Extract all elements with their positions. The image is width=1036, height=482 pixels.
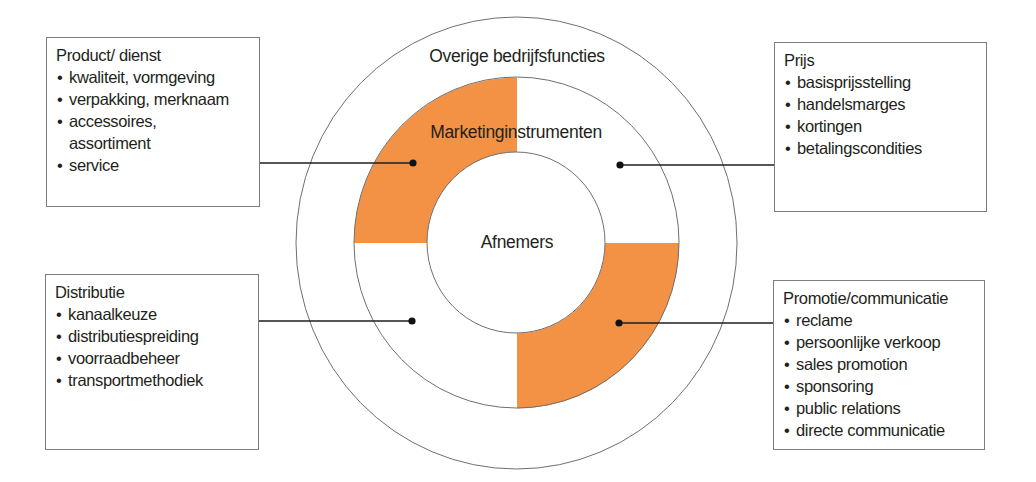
list-item: •sponsoring [783,375,976,397]
bullet-icon: • [56,325,61,347]
bullet-icon: • [56,347,61,369]
box-product-dienst: Product/ dienst •kwaliteit, vormgeving •… [46,37,260,207]
bullet-icon: • [57,154,62,176]
list-item: •accessoires, [56,110,251,132]
list-item: •persoonlijke verkoop [783,331,976,353]
bullet-icon: • [784,397,789,419]
list-item: •verpakking, merknaam [56,88,251,110]
item-list: •kanaalkeuze •distributiespreiding •voor… [55,303,250,391]
bullet-icon: • [784,375,789,397]
connector-dot-icon [615,319,622,326]
item-text: distributiespreiding [68,327,199,345]
connector-dot-icon [409,159,416,166]
list-item: •directe communicatie [783,419,976,441]
bullet-icon: • [57,66,62,88]
bullet-icon: • [785,93,790,115]
item-list: •kwaliteit, vormgeving •verpakking, merk… [56,66,251,176]
list-item: •reclame [783,309,976,331]
item-text: handelsmarges [797,95,905,113]
bullet-icon: • [57,110,62,132]
bullet-icon: • [56,369,61,391]
list-item: •handelsmarges [784,93,978,115]
item-text: service [69,156,119,174]
item-text: reclame [796,311,852,329]
list-item: •kanaalkeuze [55,303,250,325]
outer-ring-label: Overige bedrijfsfuncties [429,46,605,66]
center-label: Afnemers [481,232,554,252]
list-item: •kortingen [784,115,978,137]
bullet-icon: • [56,303,61,325]
list-item: •basisprijsstelling [784,71,978,93]
connector-dot-icon [616,161,623,168]
item-text: sales promotion [796,355,907,373]
item-text: accessoires, [69,112,157,130]
item-text: kortingen [797,117,862,135]
item-text: persoonlijke verkoop [796,333,940,351]
list-item: •voorraadbeheer [55,347,250,369]
bullet-icon: • [784,419,789,441]
item-text: voorraadbeheer [68,349,180,367]
box-title: Distributie [55,281,250,303]
item-text: kwaliteit, vormgeving [69,68,215,86]
list-item-continuation: assortiment [56,132,251,154]
list-item: •sales promotion [783,353,976,375]
box-prijs: Prijs •basisprijsstelling •handelsmarges… [774,42,987,212]
list-item: •transportmethodiek [55,369,250,391]
item-list: •basisprijsstelling •handelsmarges •kort… [784,71,978,159]
item-text: betalingscondities [797,139,922,157]
box-distributie: Distributie •kanaalkeuze •distributiespr… [45,274,259,450]
bullet-icon: • [784,353,789,375]
box-title: Product/ dienst [56,44,251,66]
bullet-icon: • [784,331,789,353]
item-text: directe communicatie [796,421,945,439]
bullet-icon: • [785,71,790,93]
list-item: •public relations [783,397,976,419]
item-list: •reclame •persoonlijke verkoop •sales pr… [783,309,976,441]
item-text: kanaalkeuze [68,305,157,323]
item-text: transportmethodiek [68,371,203,389]
middle-ring-label: Marketinginstrumenten [430,122,602,142]
box-promotie-communicatie: Promotie/communicatie •reclame •persoonl… [773,280,985,450]
bullet-icon: • [57,88,62,110]
item-text: verpakking, merknaam [69,90,229,108]
item-text: sponsoring [796,377,873,395]
list-item: •distributiespreiding [55,325,250,347]
bullet-icon: • [785,115,790,137]
list-item: •service [56,154,251,176]
item-text: public relations [796,399,900,417]
box-title: Promotie/communicatie [783,287,976,309]
bullet-icon: • [785,137,790,159]
list-item: •betalingscondities [784,137,978,159]
connector-dot-icon [408,317,415,324]
item-text: assortiment [69,134,150,152]
list-item: •kwaliteit, vormgeving [56,66,251,88]
item-text: basisprijsstelling [797,73,911,91]
box-title: Prijs [784,49,978,71]
bullet-icon: • [784,309,789,331]
